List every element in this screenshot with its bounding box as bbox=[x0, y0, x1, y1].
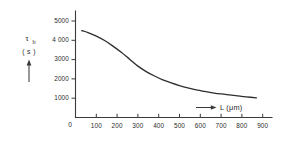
x-axis-ticks bbox=[96, 114, 262, 118]
y-axis-subscript: b bbox=[33, 38, 36, 45]
x-axis-tick-labels: 100 200 300 400 500 600 700 800 900 bbox=[91, 122, 269, 129]
y-tick-label-3000: 3000 bbox=[54, 55, 69, 62]
x-tick-label-200: 200 bbox=[112, 122, 123, 129]
x-axis-label: L (μm) bbox=[220, 103, 242, 112]
x-tick-label-600: 600 bbox=[195, 122, 206, 129]
chart-figure: τ b ( s ) 5000 4 000 3000 2000 1000 bbox=[0, 0, 281, 142]
x-tick-label-100: 100 bbox=[91, 122, 102, 129]
x-tick-label-800: 800 bbox=[236, 122, 247, 129]
x-axis-label-group: L (μm) bbox=[196, 103, 242, 112]
y-axis-symbol: τ bbox=[25, 33, 29, 43]
y-tick-label-1000: 1000 bbox=[54, 94, 69, 101]
y-axis-ticks bbox=[72, 21, 76, 98]
x-tick-label-500: 500 bbox=[174, 122, 185, 129]
y-tick-label-4000: 4 000 bbox=[52, 36, 69, 43]
x-tick-label-300: 300 bbox=[132, 122, 143, 129]
x-tick-label-900: 900 bbox=[257, 122, 268, 129]
chart-plot-area: τ b ( s ) 5000 4 000 3000 2000 1000 bbox=[0, 0, 281, 142]
y-axis-units: ( s ) bbox=[22, 48, 36, 56]
x-axis-arrow-icon bbox=[196, 105, 217, 110]
x-tick-label-700: 700 bbox=[216, 122, 227, 129]
y-tick-label-5000: 5000 bbox=[54, 17, 69, 24]
y-axis-tick-labels: 5000 4 000 3000 2000 1000 bbox=[52, 17, 69, 101]
y-axis-label-group: τ b ( s ) bbox=[22, 33, 36, 82]
x-tick-label-400: 400 bbox=[153, 122, 164, 129]
data-curve-tau-b bbox=[82, 31, 257, 98]
y-tick-label-2000: 2000 bbox=[54, 75, 69, 82]
y-axis-arrow-icon bbox=[27, 60, 32, 83]
origin-label: 0 bbox=[68, 121, 72, 128]
